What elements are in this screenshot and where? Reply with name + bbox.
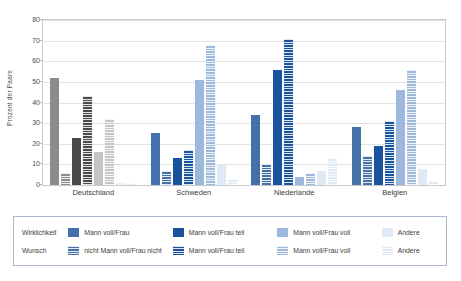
bar-slot: [216, 20, 227, 185]
legend-entry[interactable]: Andere: [382, 246, 440, 255]
bar[interactable]: [396, 90, 405, 185]
x-axis-labels: DeutschlandSchwedenNiederlandeBelgien: [43, 188, 445, 197]
legend-label: Mann voll/Frau voll: [293, 247, 350, 254]
bar[interactable]: [228, 179, 237, 185]
bar[interactable]: [83, 96, 92, 185]
bar-slot: [327, 20, 338, 185]
bar[interactable]: [151, 133, 160, 185]
bar-slot: [183, 20, 194, 185]
legend-entry[interactable]: Mann voll/Frau: [68, 228, 173, 237]
x-axis-label: Niederlande: [244, 188, 345, 197]
legend-row-label: Wunsch: [22, 247, 68, 254]
bar[interactable]: [251, 115, 260, 185]
bar-slot: [272, 20, 283, 185]
legend-row-wunsch: Wunschnicht Mann voll/Frau nichtMann vol…: [22, 241, 440, 259]
bar-slot: [283, 20, 294, 185]
y-axis-ticks: 01020304050607080: [14, 19, 40, 186]
legend-entry[interactable]: Mann voll/Frau teil: [173, 246, 278, 255]
bar-group-belgien: [345, 20, 446, 185]
bar-slot: [194, 20, 205, 185]
bar[interactable]: [273, 70, 282, 186]
bar[interactable]: [116, 183, 125, 185]
legend-swatch: [382, 228, 393, 237]
y-tick-label: 30: [18, 119, 40, 126]
bar[interactable]: [363, 156, 372, 185]
x-axis-label: Belgien: [345, 188, 446, 197]
bar-slot: [351, 20, 362, 185]
bar-groups: [43, 20, 445, 185]
bar-slot: [316, 20, 327, 185]
bar[interactable]: [72, 138, 81, 185]
legend-swatch: [277, 228, 288, 237]
bar-slot: [362, 20, 373, 185]
bar-slot: [49, 20, 60, 185]
bar-slot: [384, 20, 395, 185]
legend-label: nicht Mann voll/Frau nicht: [84, 247, 161, 254]
legend-row-label: Wirklichkeit: [22, 229, 68, 236]
bar-slot: [406, 20, 417, 185]
legend-label: Andere: [398, 229, 420, 236]
bar[interactable]: [162, 171, 171, 185]
bar[interactable]: [173, 158, 182, 185]
bar-slot: [305, 20, 316, 185]
chart-legend: WirklichkeitMann voll/FrauMann voll/Frau…: [13, 216, 447, 266]
bar-slot: [227, 20, 238, 185]
bar-slot: [172, 20, 183, 185]
bar-slot: [104, 20, 115, 185]
bar[interactable]: [61, 173, 70, 185]
bar-chart: Prozent der Paare 01020304050607080 Deut…: [0, 0, 461, 210]
bar-slot: [115, 20, 126, 185]
y-tick-label: 70: [18, 36, 40, 43]
gridline: [43, 185, 445, 186]
legend-swatch: [173, 228, 184, 237]
bar-slot: [93, 20, 104, 185]
y-tick-label: 20: [18, 139, 40, 146]
bar[interactable]: [217, 164, 226, 185]
bar[interactable]: [105, 119, 114, 185]
y-tick-label: 80: [18, 16, 40, 23]
legend-entry[interactable]: Mann voll/Frau teil: [173, 228, 278, 237]
y-tick-label: 40: [18, 98, 40, 105]
bar[interactable]: [328, 158, 337, 185]
bar[interactable]: [352, 127, 361, 185]
legend-row-wirklichkeit: WirklichkeitMann voll/FrauMann voll/Frau…: [22, 223, 440, 241]
legend-label: Andere: [398, 247, 420, 254]
bar[interactable]: [206, 45, 215, 185]
bar-slot: [126, 20, 137, 185]
legend-label: Mann voll/Frau teil: [189, 229, 245, 236]
legend-entry[interactable]: nicht Mann voll/Frau nicht: [68, 246, 173, 255]
bar[interactable]: [306, 173, 315, 185]
bar-slot: [82, 20, 93, 185]
bar[interactable]: [374, 146, 383, 185]
bar[interactable]: [50, 78, 59, 185]
legend-entry[interactable]: Mann voll/Frau voll: [277, 228, 382, 237]
bar-slot: [373, 20, 384, 185]
bar[interactable]: [284, 39, 293, 185]
bar[interactable]: [407, 70, 416, 186]
legend-swatch: [68, 228, 79, 237]
bar-slot: [294, 20, 305, 185]
bar-group-schweden: [144, 20, 245, 185]
bar[interactable]: [295, 177, 304, 185]
bar-slot: [150, 20, 161, 185]
y-tick-label: 10: [18, 160, 40, 167]
legend-swatch: [68, 246, 79, 255]
legend-label: Mann voll/Frau: [84, 229, 129, 236]
bar[interactable]: [94, 152, 103, 185]
legend-label: Mann voll/Frau voll: [293, 229, 350, 236]
bar[interactable]: [184, 150, 193, 185]
chart-root: Prozent der Paare 01020304050607080 Deut…: [0, 0, 461, 281]
bar[interactable]: [195, 80, 204, 185]
bar[interactable]: [262, 164, 271, 185]
bar[interactable]: [385, 121, 394, 185]
legend-entry[interactable]: Mann voll/Frau voll: [277, 246, 382, 255]
bar[interactable]: [127, 183, 136, 185]
bar[interactable]: [317, 171, 326, 185]
bar[interactable]: [418, 169, 427, 186]
bar[interactable]: [429, 181, 438, 185]
legend-entry[interactable]: Andere: [382, 228, 440, 237]
legend-swatch: [277, 246, 288, 255]
x-axis-label: Deutschland: [43, 188, 144, 197]
bar-group-niederlande: [244, 20, 345, 185]
bar-group-deutschland: [43, 20, 144, 185]
